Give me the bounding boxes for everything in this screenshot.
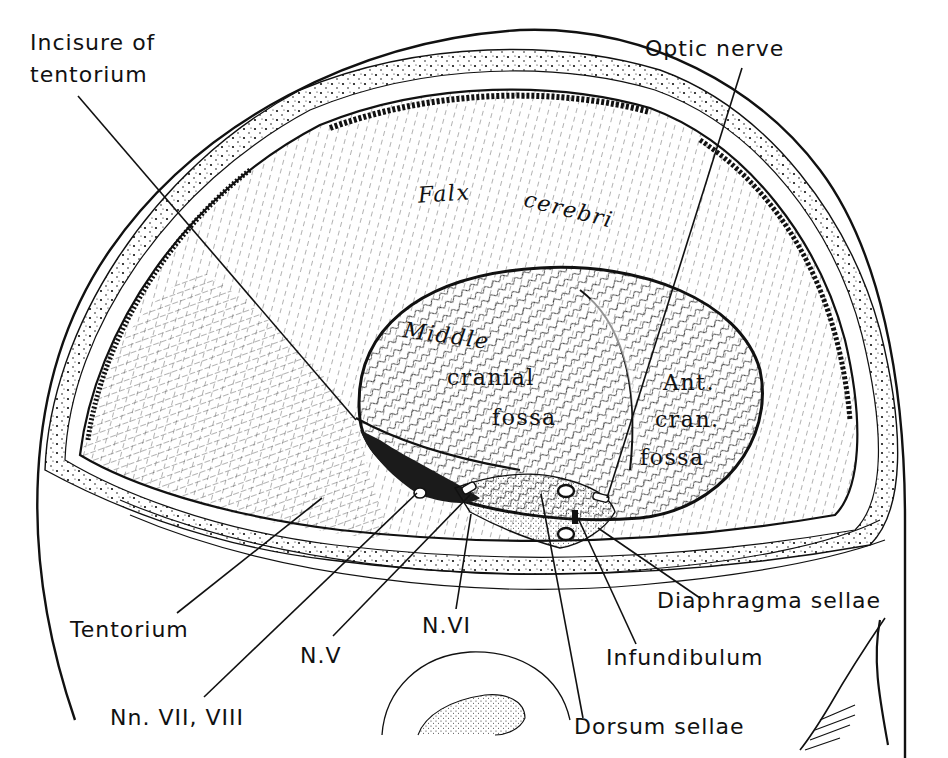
face-edge: [877, 620, 888, 745]
label-infundibulum: Infundibulum: [606, 645, 764, 671]
label-cran: cran.: [655, 408, 720, 432]
label-tentorium: Tentorium: [70, 617, 189, 643]
infundibulum-stub: [572, 510, 578, 524]
nerve-vii-viii-stub: [414, 488, 426, 498]
label-fossa-middle: fossa: [492, 406, 557, 430]
label-n-v: N.V: [300, 643, 342, 669]
label-falx: Falx: [417, 180, 471, 208]
label-cranial: cranial: [447, 366, 535, 390]
nose-hatching: [805, 705, 855, 750]
label-fossa-anterior: fossa: [640, 446, 705, 470]
internal-carotid-cut-upper: [558, 485, 574, 497]
ear-inner-detail: [418, 695, 525, 735]
label-diaphragma-sellae: Diaphragma sellae: [657, 588, 881, 614]
internal-carotid-cut-lower: [558, 528, 574, 540]
label-nn-vii-viii: Nn. VII, VIII: [110, 705, 244, 731]
nose-outline: [800, 618, 885, 750]
label-ant: Ant.: [663, 371, 715, 395]
label-incisure-of-tentorium-line1: Incisure of: [30, 30, 155, 56]
label-incisure-of-tentorium-line2: tentorium: [30, 62, 148, 88]
label-n-vi: N.VI: [422, 613, 471, 639]
label-dorsum-sellae: Dorsum sellae: [574, 714, 745, 740]
label-optic-nerve: Optic nerve: [645, 36, 784, 62]
